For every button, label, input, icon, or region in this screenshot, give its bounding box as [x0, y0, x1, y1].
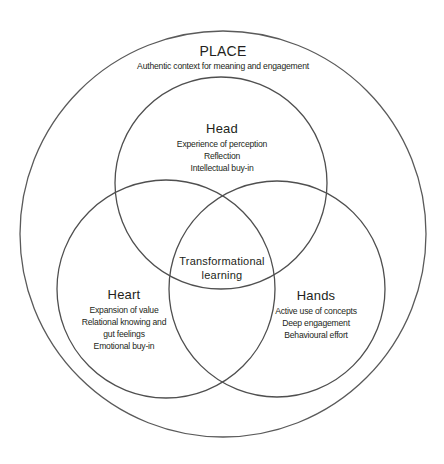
hands-title: Hands — [297, 288, 336, 303]
heart-line: Emotional buy-in — [82, 340, 166, 352]
place-title: PLACE — [200, 43, 247, 59]
head-title: Head — [206, 121, 238, 136]
head-line: Intellectual buy-in — [177, 162, 267, 174]
center-line-2: learning — [179, 268, 264, 282]
heart-line: Relational knowing and — [82, 316, 166, 328]
hands-line: Deep engagement — [275, 317, 357, 329]
heart-line: gut feelings — [82, 328, 166, 340]
heart-title: Heart — [108, 287, 141, 302]
center-label: Transformational learning — [179, 254, 264, 282]
place-subtitle: Authentic context for meaning and engage… — [137, 61, 309, 71]
center-line-1: Transformational — [179, 254, 264, 268]
place-label: PLACE Authentic context for meaning and … — [137, 41, 309, 72]
head-label: Head Experience of perception Reflection… — [177, 118, 267, 174]
hands-line: Active use of concepts — [275, 305, 357, 317]
heart-line: Expansion of value — [82, 304, 166, 316]
place-outer-circle — [20, 31, 426, 437]
hands-label: Hands Active use of concepts Deep engage… — [275, 285, 357, 341]
head-line: Reflection — [177, 150, 267, 162]
head-line: Experience of perception — [177, 138, 267, 150]
heart-label: Heart Expansion of value Relational know… — [82, 284, 166, 352]
hands-line: Behavioural effort — [275, 329, 357, 341]
